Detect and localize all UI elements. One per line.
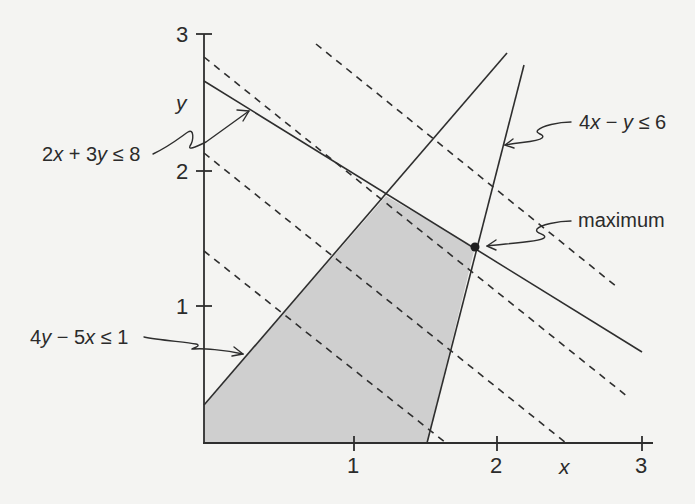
label-2x-3y-8: 2x + 3y ≤ 8: [42, 143, 140, 165]
c1-coef: 2: [42, 143, 53, 165]
c2-coef: 4: [579, 111, 590, 133]
x-tick-label-3: 3: [635, 453, 647, 478]
c3-coef: 4: [30, 326, 41, 348]
arrow-4y-5x-1: [144, 337, 243, 354]
c1-rel: ≤ 8: [107, 143, 140, 165]
arrow-maximum: [487, 221, 571, 246]
linear-programming-figure: 3 2 1 1 2 3 y x 2x + 3y ≤ 8 4x − y ≤ 6 4…: [0, 0, 695, 504]
y-tick-label-3: 3: [176, 22, 188, 47]
c2-op: −: [600, 111, 623, 133]
maximum-point: [471, 243, 480, 252]
arrow-4x-y-6: [505, 122, 571, 145]
c2-rel: ≤ 6: [633, 111, 666, 133]
arrow-2x-3y-8: [153, 111, 249, 154]
feasible-region: [204, 196, 475, 443]
x-tick-label-1: 1: [347, 453, 359, 478]
y-tick-label-1: 1: [176, 294, 188, 319]
label-4y-5x-1: 4y − 5x ≤ 1: [30, 326, 128, 348]
x-tick-label-2: 2: [490, 453, 502, 478]
y-tick-label-2: 2: [176, 159, 188, 184]
x-axis-label: x: [558, 455, 571, 478]
label-4x-y-6: 4x − y ≤ 6: [579, 111, 666, 133]
y-axis-label: y: [174, 91, 188, 114]
label-maximum: maximum: [578, 209, 665, 231]
c3-op: − 5: [51, 326, 85, 348]
c1-op: + 3: [63, 143, 97, 165]
c3-rel: ≤ 1: [95, 326, 128, 348]
